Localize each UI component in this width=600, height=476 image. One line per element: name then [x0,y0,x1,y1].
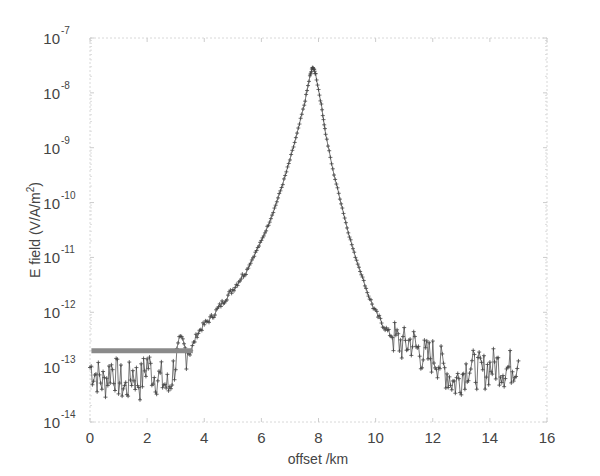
plus-marker [297,122,301,126]
plus-marker [289,152,293,156]
y-tick-exponent: -11 [61,244,75,255]
plus-marker [478,356,482,360]
plus-marker [284,170,288,174]
plus-marker [95,390,99,394]
x-tick-label: 12 [424,429,441,446]
plus-marker [315,78,319,82]
plus-marker [345,226,349,230]
plus-marker [422,338,426,342]
x-tick-label: 8 [314,429,322,446]
plus-marker [296,126,300,130]
plus-marker [325,137,329,141]
plus-marker [402,326,406,330]
plus-marker [317,93,321,97]
plus-marker [427,341,431,345]
plus-marker [159,360,163,364]
plus-marker [328,155,332,159]
plus-marker [450,388,454,392]
plus-marker [515,366,519,370]
plus-marker [443,366,447,370]
plus-marker [352,250,356,254]
plus-marker [182,342,186,346]
y-tick-label: 10 [43,249,60,266]
plus-marker [318,99,322,103]
plus-marker [412,330,416,334]
y-axis-title: E field (V/A/m2) [25,182,43,278]
plus-marker [445,372,449,376]
y-tick-exponent: -10 [61,190,76,201]
plus-marker [320,108,324,112]
plus-marker [491,347,495,351]
plus-marker [456,371,460,375]
plus-marker [117,392,121,396]
plus-marker [139,362,143,366]
plus-marker [101,370,105,374]
y-axis-ticks: 10-710-810-910-1010-1110-1210-1310-14 [43,25,547,431]
x-tick-label: 0 [86,429,94,446]
plus-marker [330,162,334,166]
plus-marker [324,132,328,136]
plus-marker [127,360,131,364]
plus-marker [463,387,467,391]
plus-marker [303,99,307,103]
plus-marker [365,291,369,295]
plus-marker [100,387,104,391]
plus-marker [447,375,451,379]
y-tick-label: 10 [43,414,60,431]
plus-marker [184,367,188,371]
plus-marker [301,107,305,111]
plus-marker [321,118,325,122]
plus-marker [421,358,425,362]
plus-marker [171,359,175,363]
plus-marker [418,354,422,358]
plus-marker [167,389,171,393]
plus-marker [471,348,475,352]
plus-marker [516,359,520,363]
y-tick-label: 10 [43,30,60,47]
plus-marker [134,366,138,370]
plus-marker [346,231,350,235]
data-series [88,66,520,402]
x-axis-title: offset /km [288,451,348,467]
plus-marker [397,349,401,353]
plus-marker [475,387,479,391]
plus-marker [351,247,355,251]
plus-marker [476,355,480,359]
y-tick-label: 10 [43,359,60,376]
plus-marker [446,386,450,390]
plus-marker [338,197,342,201]
y-tick-exponent: -12 [61,299,76,310]
plus-marker [425,339,429,343]
plus-marker [138,398,142,402]
y-tick-label: 10 [43,304,60,321]
plus-marker [343,216,347,220]
plus-marker [432,361,436,365]
plus-marker [370,302,374,306]
x-tick-label: 4 [200,429,208,446]
plus-marker [165,372,169,376]
plus-marker [322,123,326,127]
plus-marker [119,363,123,367]
plus-marker [287,161,291,165]
plus-marker [494,377,498,381]
plus-marker [457,377,461,381]
plus-marker [391,349,395,353]
plus-marker [269,217,273,221]
x-tick-label: 6 [257,429,265,446]
plus-marker [304,92,308,96]
plus-marker [340,206,344,210]
plus-marker [334,182,338,186]
plus-marker [156,379,160,383]
plus-marker [331,167,335,171]
y-axis-title-main: E field (V/A/m [27,192,43,278]
plus-marker [133,387,137,391]
plus-marker [144,374,148,378]
plus-marker [333,177,337,181]
x-tick-label: 10 [367,429,384,446]
y-tick-exponent: -9 [61,135,70,146]
chart: 10-710-810-910-1010-1110-1210-1310-14 02… [0,0,600,476]
plus-marker [130,383,134,387]
plus-marker [439,344,443,348]
plus-marker [503,377,507,381]
x-tick-label: 14 [482,429,499,446]
